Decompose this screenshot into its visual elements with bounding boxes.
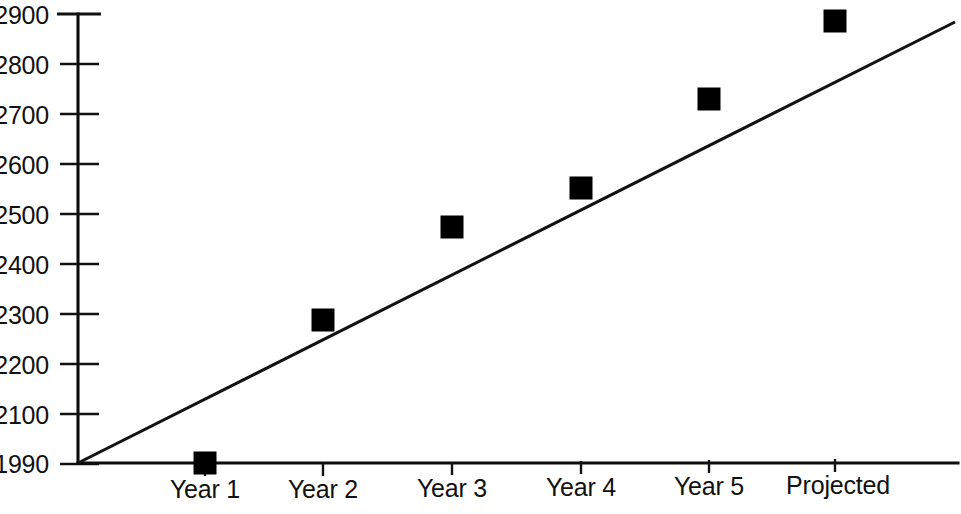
data-point-year-3: [441, 216, 463, 238]
trend-line: [78, 22, 955, 463]
data-point-year-2: [312, 309, 334, 331]
y-tick-label-2100: 2100: [0, 401, 49, 429]
x-tick-label-year-1: Year 1: [170, 475, 240, 503]
y-tick-label-2400: 2400: [0, 251, 49, 279]
y-tick-label-2900: 2900: [0, 1, 49, 29]
x-axis-tick-labels: Year 1 Year 2 Year 3 Year 4 Year 5 Proje…: [170, 471, 890, 503]
y-tick-label-2600: 2600: [0, 151, 49, 179]
y-tick-label-2300: 2300: [0, 301, 49, 329]
y-tick-label-2800: 2800: [0, 51, 49, 79]
x-tick-label-year-4: Year 4: [546, 473, 616, 501]
x-tick-label-year-5: Year 5: [674, 472, 744, 500]
data-point-year-4: [570, 177, 592, 199]
y-tick-label-2700: 2700: [0, 101, 49, 129]
x-tick-label-year-3: Year 3: [417, 474, 487, 502]
chart-canvas: 2900 2800 2700 2600 2500 2400 2300 2200 …: [0, 0, 961, 514]
y-tick-label-2500: 2500: [0, 201, 49, 229]
data-point-year-1: [194, 452, 216, 474]
y-tick-label-2200: 2200: [0, 351, 49, 379]
scatter-chart: 2900 2800 2700 2600 2500 2400 2300 2200 …: [0, 0, 961, 514]
y-axis-tick-labels: 2900 2800 2700 2600 2500 2400 2300 2200 …: [0, 1, 49, 478]
y-axis-group: [57, 14, 101, 464]
x-tick-label-projected: Projected: [786, 471, 890, 499]
data-point-year-5: [698, 88, 720, 110]
y-tick-label-1990: 1990: [0, 450, 49, 478]
data-point-projected: [824, 10, 846, 32]
x-tick-label-year-2: Year 2: [288, 475, 358, 503]
